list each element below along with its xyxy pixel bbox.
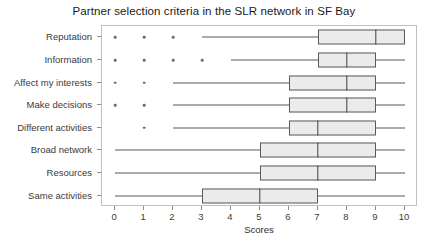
x-tick-4 [230, 206, 231, 210]
x-tick-10 [404, 206, 405, 210]
x-axis-title: Scores [101, 224, 417, 235]
x-tick-label-3: 3 [198, 211, 203, 222]
x-tick-label-2: 2 [169, 211, 174, 222]
x-tick-label-7: 7 [314, 211, 319, 222]
x-tick-3 [201, 206, 202, 210]
y-tick-label-resources: Resources [47, 167, 92, 178]
x-tick-label-5: 5 [256, 211, 261, 222]
y-tick-resources [97, 172, 101, 173]
x-tick-7 [317, 206, 318, 210]
chart-title: Partner selection criteria in the SLR ne… [0, 5, 428, 17]
box-same-activities [102, 26, 416, 205]
y-axis-labels: ReputationInformationAffect my interests… [0, 25, 96, 206]
y-tick-make-decisions [97, 104, 101, 105]
y-tick-label-reputation: Reputation [46, 31, 92, 42]
x-tick-label-0: 0 [111, 211, 116, 222]
y-tick-same-activities [97, 195, 101, 196]
y-tick-label-affect-my-interests: Affect my interests [14, 76, 92, 87]
median-same-activities [259, 188, 260, 203]
x-tick-6 [288, 206, 289, 210]
plot-panel [101, 25, 417, 206]
y-tick-information [97, 59, 101, 60]
boxplot-chart: Partner selection criteria in the SLR ne… [0, 0, 428, 239]
y-tick-broad-network [97, 149, 101, 150]
y-tick-label-information: Information [44, 53, 92, 64]
x-tick-0 [114, 206, 115, 210]
y-tick-reputation [97, 36, 101, 37]
x-tick-2 [172, 206, 173, 210]
x-tick-label-1: 1 [140, 211, 145, 222]
x-tick-8 [346, 206, 347, 210]
x-tick-label-8: 8 [343, 211, 348, 222]
y-tick-label-make-decisions: Make decisions [27, 99, 92, 110]
y-tick-label-broad-network: Broad network [31, 144, 92, 155]
x-tick-1 [143, 206, 144, 210]
x-tick-label-10: 10 [399, 211, 410, 222]
x-tick-label-9: 9 [372, 211, 377, 222]
whisker-high-same-activities [318, 195, 405, 196]
y-tick-different-activities [97, 127, 101, 128]
x-tick-9 [375, 206, 376, 210]
y-tick-label-same-activities: Same activities [28, 189, 92, 200]
x-tick-label-6: 6 [285, 211, 290, 222]
x-tick-label-4: 4 [227, 211, 232, 222]
x-tick-5 [259, 206, 260, 210]
y-tick-affect-my-interests [97, 82, 101, 83]
y-tick-label-different-activities: Different activities [17, 121, 92, 132]
whisker-low-same-activities [115, 195, 202, 196]
